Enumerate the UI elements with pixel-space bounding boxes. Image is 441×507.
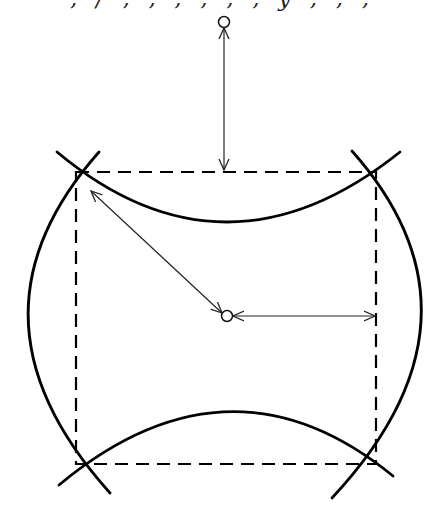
top-arc bbox=[57, 152, 400, 222]
bottom-arc bbox=[59, 412, 393, 485]
center-point bbox=[222, 311, 233, 322]
geometric-construction-diagram bbox=[0, 0, 441, 507]
top-point bbox=[219, 17, 230, 28]
left-arc bbox=[28, 152, 110, 493]
